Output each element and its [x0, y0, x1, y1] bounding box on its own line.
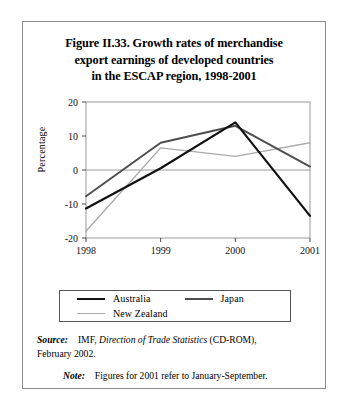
figure-footnotes: Source:IMF, Direction of Trade Statistic… [37, 333, 313, 383]
svg-text:2000: 2000 [225, 245, 245, 256]
source-publication: Direction of Trade Statistics [99, 334, 207, 345]
chart-plot-svg: 20100-10-201998199920002001 [23, 92, 325, 267]
figure-title: Figure II.33. Growth rates of merchandis… [37, 35, 311, 85]
source-post: (CD-ROM), [210, 334, 257, 345]
figure-container: Figure II.33. Growth rates of merchandis… [22, 21, 326, 389]
legend-entry-new-zealand: New Zealand [77, 308, 168, 319]
chart-legend: Australia Japan New Zealand [59, 290, 291, 322]
source-note: Source:IMF, Direction of Trade Statistic… [37, 333, 313, 360]
legend-swatch-japan [185, 298, 213, 300]
legend-entry-australia: Australia [77, 293, 151, 304]
svg-text:1998: 1998 [76, 245, 96, 256]
legend-swatch-new-zealand [77, 313, 105, 314]
source-pre: IMF, [78, 334, 97, 345]
svg-text:2001: 2001 [300, 245, 320, 256]
figure-title-line-1: Figure II.33. Growth rates of merchandis… [37, 35, 311, 52]
figure-title-line-3: in the ESCAP region, 1998-2001 [37, 68, 311, 85]
line-chart: Percentage 20100-10-201998199920002001 [23, 92, 325, 267]
explanatory-note: Note:Figures for 2001 refer to January-S… [37, 369, 313, 383]
svg-text:10: 10 [68, 130, 78, 141]
svg-text:20: 20 [68, 96, 78, 107]
legend-label-new-zealand: New Zealand [113, 308, 168, 319]
svg-text:-20: -20 [65, 232, 78, 243]
svg-text:-10: -10 [65, 198, 78, 209]
source-line-2: February 2002. [37, 348, 96, 359]
source-label: Source: [37, 334, 68, 345]
svg-text:0: 0 [73, 164, 78, 175]
note-label: Note: [63, 370, 85, 381]
y-axis-title: Percentage [36, 113, 47, 185]
legend-entry-japan: Japan [185, 293, 244, 304]
legend-swatch-australia [77, 298, 105, 300]
legend-row-1: Australia Japan [60, 291, 290, 306]
figure-title-line-2: export earnings of developed countries [37, 52, 311, 69]
svg-text:1999: 1999 [151, 245, 171, 256]
note-text: Figures for 2001 refer to January-Septem… [95, 370, 268, 381]
legend-label-japan: Japan [221, 293, 244, 304]
legend-label-australia: Australia [113, 293, 151, 304]
legend-row-2: New Zealand [60, 306, 290, 321]
